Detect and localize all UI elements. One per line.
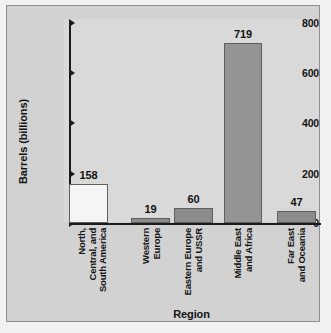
y-tick-label-800: 800	[273, 17, 319, 29]
cat-line-3: South America	[98, 228, 109, 296]
bar-middle-east-africa[interactable]	[224, 43, 262, 223]
y-axis-title: Barrels (billions)	[17, 99, 29, 184]
y-tick-label-200: 200	[273, 168, 319, 180]
y-tick-marker-600	[69, 69, 75, 77]
cat-line-2: and Oceania	[297, 228, 308, 296]
cat-line-2: and USSR	[194, 228, 205, 296]
chart-figure: 800 600 400 200 0 158 19 60 719 47 North…	[0, 0, 331, 333]
x-category-label-western-europe: Western Europe	[141, 228, 162, 296]
cat-line-1: Middle East	[233, 228, 244, 296]
y-tick-marker-800	[69, 19, 75, 27]
cat-line-1: North,	[77, 228, 88, 296]
bar-value-north-central-south-america: 158	[69, 169, 108, 181]
cat-line-1: Western	[141, 228, 152, 296]
y-tick-label-600: 600	[273, 67, 319, 79]
bar-eastern-europe-ussr[interactable]	[174, 208, 213, 223]
y-tick-label-400: 400	[273, 117, 319, 129]
bar-value-middle-east-africa: 719	[224, 28, 262, 40]
bar-value-far-east-oceania: 47	[277, 196, 316, 208]
x-category-label-eastern-europe-ussr: Eastern Europe and USSR	[183, 228, 204, 296]
cat-line-1: Far East	[286, 228, 297, 296]
bar-value-western-europe: 19	[131, 203, 170, 215]
x-category-label-north-central-south-america: North, Central, and South America	[77, 228, 109, 296]
bar-western-europe[interactable]	[131, 218, 170, 223]
y-tick-marker-400	[69, 119, 75, 127]
cat-line-1: Eastern Europe	[183, 228, 194, 296]
x-axis-title: Region	[64, 308, 319, 320]
bar-far-east-oceania[interactable]	[277, 211, 316, 223]
cat-line-2: Europe	[152, 228, 163, 296]
chart-panel: 800 600 400 200 0 158 19 60 719 47 North…	[6, 5, 320, 322]
bar-value-eastern-europe-ussr: 60	[174, 193, 213, 205]
x-category-label-middle-east-africa: Middle East and Africa	[233, 228, 254, 296]
cat-line-2: and Africa	[244, 228, 255, 296]
x-category-label-far-east-oceania: Far East and Oceania	[286, 228, 307, 296]
bar-north-central-south-america[interactable]	[69, 184, 108, 224]
